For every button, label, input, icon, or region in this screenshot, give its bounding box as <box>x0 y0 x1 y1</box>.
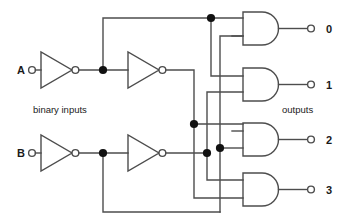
and-gate-1[interactable]: 1 <box>243 68 332 101</box>
output-terminal-3-icon[interactable] <box>308 186 315 193</box>
input-b-group <box>29 150 41 157</box>
inverter-a1[interactable] <box>41 52 79 88</box>
and-gate-2-body-icon <box>243 123 279 156</box>
input-label-a: A <box>17 64 25 76</box>
inverter-a1-body-icon <box>41 52 72 88</box>
wire-A-to-gate3 <box>194 124 243 198</box>
junction-dot-mid-bus <box>190 120 198 128</box>
inverter-a2-body-icon <box>128 52 159 88</box>
binary-inputs-caption: binary inputs <box>33 104 87 115</box>
circuit-svg: 0 1 2 3 A B binary inputs outputs <box>0 0 346 224</box>
inverter-a2-bubble-icon <box>159 67 166 74</box>
wire-notA-to-gate1 <box>211 18 243 76</box>
wire-A-vertical-bus <box>166 70 194 124</box>
inverter-b2-body-icon <box>128 135 159 171</box>
inverter-b2[interactable] <box>128 135 166 171</box>
output-label-0: 0 <box>326 23 332 35</box>
logic-diagram-canvas: 0 1 2 3 A B binary inputs outputs <box>0 0 346 224</box>
junction-dot-not-a <box>99 66 107 74</box>
wire-B-to-gate1 <box>207 92 243 153</box>
outputs-caption: outputs <box>282 104 313 115</box>
wire-notB-bottom-run <box>103 153 220 212</box>
junction-dot-low-bus-a <box>203 149 211 157</box>
and-gate-3[interactable]: 3 <box>243 173 332 206</box>
junction-dot-not-b <box>99 149 107 157</box>
and-gate-1-body-icon <box>243 68 279 101</box>
inverter-b1-bubble-icon <box>72 150 79 157</box>
output-terminal-2-icon[interactable] <box>308 136 315 143</box>
wire-notA-to-gate0 <box>103 18 243 70</box>
and-gate-0-body-icon <box>243 12 279 45</box>
output-terminal-0-icon[interactable] <box>308 25 315 32</box>
and-gate-0[interactable]: 0 <box>243 12 332 45</box>
output-label-2: 2 <box>326 134 332 146</box>
input-label-b: B <box>17 147 25 159</box>
inverter-b2-bubble-icon <box>159 150 166 157</box>
inverter-a1-bubble-icon <box>72 67 79 74</box>
inverter-b1[interactable] <box>41 135 79 171</box>
inverter-b1-body-icon <box>41 135 72 171</box>
output-terminal-1-icon[interactable] <box>308 81 315 88</box>
input-terminal-b-icon[interactable] <box>29 150 36 157</box>
output-label-1: 1 <box>326 79 332 91</box>
junction-dot-top-bus <box>207 14 215 22</box>
and-gate-2[interactable]: 2 <box>243 123 332 156</box>
input-terminal-a-icon[interactable] <box>29 67 36 74</box>
input-a-group <box>29 67 41 74</box>
and-gate-3-body-icon <box>243 173 279 206</box>
junction-dot-low-bus-b <box>216 144 224 152</box>
inverter-a2[interactable] <box>128 52 166 88</box>
output-label-3: 3 <box>326 184 332 196</box>
wire-B-to-gate3-upper <box>207 153 243 180</box>
